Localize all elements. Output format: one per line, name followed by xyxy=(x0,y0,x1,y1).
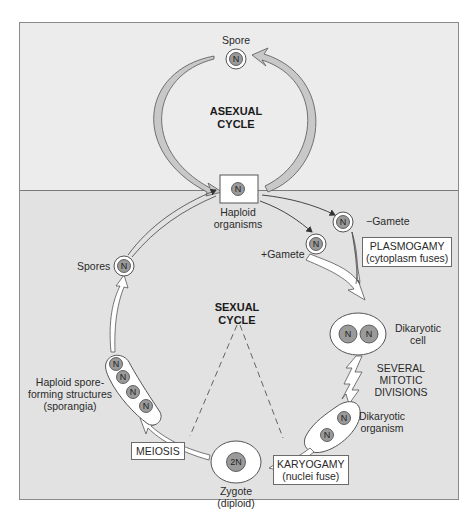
sexual-cycle-dashed-left xyxy=(190,325,237,436)
spore-cell: N xyxy=(226,49,246,69)
dikaryotic-cell-label: Dikaryotic cell xyxy=(390,322,446,346)
arrow-spores-to-haploid-2 xyxy=(132,196,216,257)
plasmogamy-title: PLASMOGAMY xyxy=(366,240,448,252)
sporangia-nucleus-3: N xyxy=(130,387,137,397)
dikaryotic-nucleus-1: N xyxy=(345,329,352,339)
dikaryotic-organism-line2: organism xyxy=(354,422,410,434)
karyogamy-title: KARYOGAMY xyxy=(277,458,345,470)
sporangia-line3: (sporangia) xyxy=(22,400,118,412)
minus-gamete-label: −Gamete xyxy=(366,215,409,227)
karyogamy-subtitle: (nuclei fuse) xyxy=(277,470,345,482)
plasmogamy-subtitle: (cytoplasm fuses) xyxy=(366,252,448,264)
plus-gamete-nucleus-label: N xyxy=(313,239,320,249)
zygote-line1: Zygote xyxy=(208,485,264,497)
dikaryotic-cell-line2: cell xyxy=(390,334,446,346)
organism-nucleus-1: N xyxy=(341,413,348,423)
haploid-organism-box: N xyxy=(220,175,258,203)
spore-nucleus-label: N xyxy=(233,54,240,64)
plus-gamete-cell: N xyxy=(306,234,326,254)
minus-gamete-nucleus-label: N xyxy=(340,217,347,227)
sexual-cycle-dashed-right xyxy=(240,325,283,438)
haploid-nucleus-label: N xyxy=(235,184,242,194)
sexual-cycle-title: SEXUAL CYCLE xyxy=(207,301,267,327)
haploid-organisms-line2: organisms xyxy=(208,218,268,230)
sexual-title-line2: CYCLE xyxy=(207,314,267,327)
mitotic-line1: SEVERAL xyxy=(368,362,434,374)
plasmogamy-box: PLASMOGAMY (cytoplasm fuses) xyxy=(362,237,452,267)
arrow-spores-to-haploid-1 xyxy=(128,190,216,255)
mitotic-divisions-arrow xyxy=(342,356,362,404)
sporangia-nucleus-2: N xyxy=(120,372,127,382)
karyogamy-box: KARYOGAMY (nuclei fuse) xyxy=(273,455,349,485)
mitotic-line2: MITOTIC xyxy=(368,374,434,386)
asexual-title-line1: ASEXUAL xyxy=(200,105,272,118)
organism-nucleus-2: N xyxy=(324,430,331,440)
spores-nucleus-label: N xyxy=(121,261,128,271)
asexual-cycle-title: ASEXUAL CYCLE xyxy=(200,105,272,131)
spores-label: Spores xyxy=(77,260,110,272)
mitotic-line3: DIVISIONS xyxy=(368,386,434,398)
zygote-label: Zygote (diploid) xyxy=(208,485,264,509)
sporangia-line2: forming structures xyxy=(22,388,118,400)
sexual-title-line1: SEXUAL xyxy=(207,301,267,314)
dikaryotic-nucleus-2: N xyxy=(366,329,373,339)
spores-cell: N xyxy=(114,256,134,276)
dikaryotic-organism-line1: Dikaryotic xyxy=(354,410,410,422)
mitotic-divisions-label: SEVERAL MITOTIC DIVISIONS xyxy=(368,362,434,398)
zygote-cell: 2N xyxy=(211,441,261,483)
arrow-sporangia-to-spores xyxy=(110,275,128,352)
sporangia-line1: Haploid spore- xyxy=(22,376,118,388)
meiosis-box: MEIOSIS xyxy=(131,442,185,460)
dikaryotic-cell: N N xyxy=(330,313,386,355)
haploid-organisms-line1: Haploid xyxy=(208,206,268,218)
asexual-title-line2: CYCLE xyxy=(200,118,272,131)
zygote-nucleus-label: 2N xyxy=(230,457,242,467)
arrow-to-minus-gamete xyxy=(262,195,335,215)
sporangia-nucleus-1: N xyxy=(113,359,120,369)
zygote-line2: (diploid) xyxy=(208,497,264,509)
dikaryotic-organism-label: Dikaryotic organism xyxy=(354,410,410,434)
plus-gamete-label: +Gamete xyxy=(261,248,304,260)
dikaryotic-organism: N N xyxy=(304,402,360,453)
dikaryotic-cell-line1: Dikaryotic xyxy=(390,322,446,334)
sporangia-label: Haploid spore- forming structures (spora… xyxy=(22,376,118,412)
spore-label: Spore xyxy=(216,34,256,46)
sporangia-nucleus-4: N xyxy=(143,401,150,411)
minus-gamete-cell: N xyxy=(333,212,353,232)
haploid-organisms-label: Haploid organisms xyxy=(208,206,268,230)
